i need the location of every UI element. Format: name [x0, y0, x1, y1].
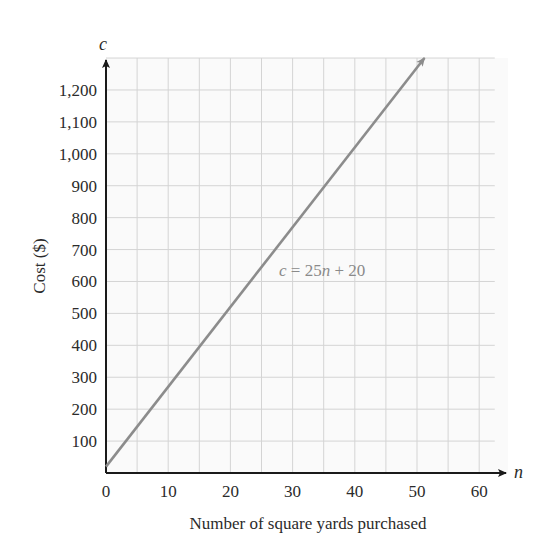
y-tick-label: 800	[72, 209, 98, 228]
chart: 1002003004005006007008009001,0001,1001,2…	[0, 0, 542, 545]
y-tick-label: 900	[72, 177, 98, 196]
y-axis-title: Cost ($)	[30, 238, 49, 293]
x-tick-label: 30	[284, 482, 301, 501]
x-tick-labels: 0102030405060	[102, 482, 488, 501]
y-tick-label: 500	[72, 304, 98, 323]
y-tick-label: 600	[72, 272, 98, 291]
x-variable-label: n	[514, 462, 523, 482]
y-variable-label: c	[99, 34, 107, 54]
x-tick-label: 60	[471, 482, 488, 501]
x-tick-label: 0	[102, 482, 111, 501]
x-tick-label: 10	[160, 482, 177, 501]
x-tick-label: 50	[409, 482, 426, 501]
x-tick-label: 40	[346, 482, 363, 501]
y-tick-label: 400	[72, 336, 98, 355]
y-tick-label: 700	[72, 241, 98, 260]
y-tick-label: 300	[72, 368, 98, 387]
y-tick-label: 1,000	[59, 145, 97, 164]
y-tick-label: 200	[72, 400, 98, 419]
y-tick-label: 1,100	[59, 113, 97, 132]
y-tick-label: 100	[72, 432, 98, 451]
y-tick-labels: 1002003004005006007008009001,0001,1001,2…	[59, 81, 97, 451]
equation-label: c = 25n + 20	[279, 261, 365, 280]
y-tick-label: 1,200	[59, 81, 97, 100]
x-axis-title: Number of square yards purchased	[190, 514, 427, 533]
x-tick-label: 20	[222, 482, 239, 501]
